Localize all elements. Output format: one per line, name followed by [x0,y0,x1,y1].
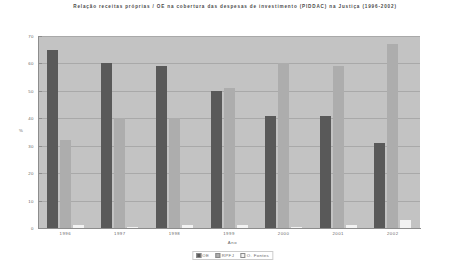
x-tick-label: 2000 [256,231,311,236]
bar-group [93,36,148,228]
x-tick-label: 1996 [38,231,93,236]
bar-groups [38,36,420,228]
bar [387,44,398,228]
y-tick-label: 50 [8,88,34,93]
chart-title: Relação receitas próprias / OE na cobert… [55,2,415,11]
bar [333,66,344,228]
bar [156,66,167,228]
bar [265,116,276,228]
legend-swatch-icon [215,253,220,258]
legend-item[interactable]: RPFJ [215,253,234,258]
legend-label: O. Fontes [247,253,269,258]
bar-group [147,36,202,228]
bar [114,118,125,228]
legend-swatch-icon [196,253,201,258]
y-tick-label: 20 [8,171,34,176]
x-axis-label: Ano [0,240,465,245]
legend-label: OE [202,253,209,258]
y-axis-label: % [19,128,23,133]
bar [320,116,331,228]
y-tick-label: 70 [8,34,34,39]
bar [169,118,180,228]
chart-container: Relação receitas próprias / OE na cobert… [0,0,465,270]
bar [374,143,385,228]
x-tick-label: 1997 [93,231,148,236]
x-tick-label: 1999 [202,231,257,236]
bar [101,63,112,228]
bar [278,63,289,228]
bar [60,140,71,228]
y-tick-mark [39,228,42,229]
y-tick-label: 10 [8,198,34,203]
chart-legend: OERPFJO. Fontes [192,251,273,260]
bar-group [202,36,257,228]
bar-group [365,36,420,228]
legend-item[interactable]: O. Fontes [240,253,269,258]
legend-swatch-icon [240,253,245,258]
y-tick-label: 0 [8,226,34,231]
legend-label: RPFJ [222,253,234,258]
x-axis-line [38,228,421,229]
bar [73,225,84,228]
legend-item[interactable]: OE [196,253,210,258]
bar [237,225,248,228]
bar [346,225,357,228]
x-tick-label: 2001 [311,231,366,236]
y-tick-label: 30 [8,143,34,148]
bar [400,220,411,228]
x-tick-label: 2002 [365,231,420,236]
bar-group [256,36,311,228]
x-axis-ticks: 1996199719981999200020012002 [38,231,420,236]
x-tick-label: 1998 [147,231,202,236]
bar [211,91,222,228]
bar [47,50,58,228]
bar-group [311,36,366,228]
bar [182,225,193,228]
bar-group [38,36,93,228]
bar [127,227,138,228]
bar [291,227,302,228]
y-tick-label: 60 [8,61,34,66]
y-tick-label: 40 [8,116,34,121]
bar [224,88,235,228]
